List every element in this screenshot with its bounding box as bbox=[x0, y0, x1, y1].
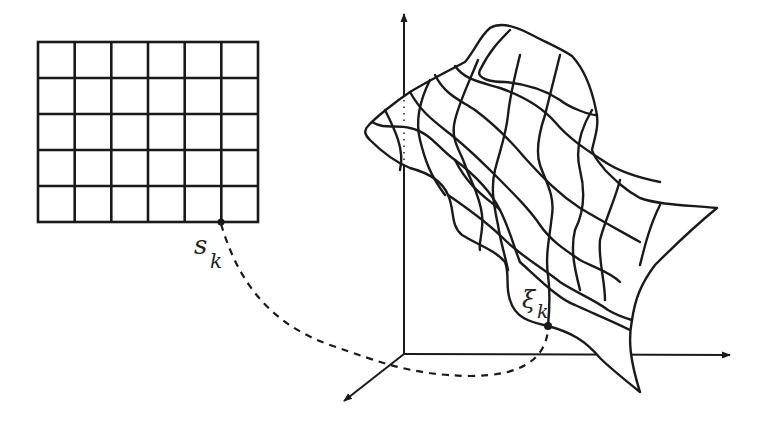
label-xi-base: ξ bbox=[522, 286, 537, 314]
label-s-k: s k bbox=[194, 230, 222, 273]
label-xi-subscript: k bbox=[537, 300, 549, 322]
curved-surface bbox=[365, 25, 717, 392]
point-xi-k bbox=[544, 322, 552, 330]
diagram-canvas: s k ξ k bbox=[0, 0, 760, 426]
grid-vertical-lines bbox=[75, 42, 222, 222]
y-axis bbox=[404, 354, 730, 355]
x-axis bbox=[344, 354, 404, 401]
parameter-grid bbox=[38, 42, 258, 222]
point-s-k bbox=[218, 219, 225, 226]
surface-outline bbox=[365, 25, 717, 392]
label-s-base: s bbox=[194, 230, 207, 260]
label-s-subscript: k bbox=[210, 249, 222, 273]
